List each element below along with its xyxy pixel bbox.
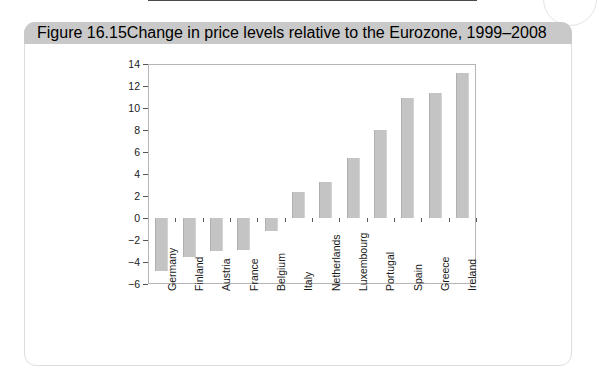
y-tick-label: 0 bbox=[106, 213, 140, 224]
bar bbox=[347, 158, 360, 219]
x-axis-label: Belgium bbox=[276, 253, 287, 291]
x-tick-mark bbox=[175, 218, 176, 222]
y-tick-mark bbox=[143, 240, 148, 241]
y-tick-label: 10 bbox=[106, 103, 140, 114]
y-tick-label: 4 bbox=[106, 169, 140, 180]
bar bbox=[456, 73, 469, 218]
bar bbox=[319, 182, 332, 218]
bar bbox=[265, 218, 278, 231]
y-tick-label: 14 bbox=[106, 59, 140, 70]
y-tick-label: −2 bbox=[106, 235, 140, 246]
bar bbox=[237, 218, 250, 250]
y-tick-mark bbox=[143, 262, 148, 263]
bar bbox=[292, 192, 305, 218]
x-tick-mark bbox=[476, 218, 477, 222]
y-tick-label: −4 bbox=[106, 257, 140, 268]
x-tick-mark bbox=[339, 218, 340, 222]
plot-area bbox=[148, 64, 476, 284]
bar bbox=[183, 218, 196, 257]
bar bbox=[374, 130, 387, 218]
y-tick-mark bbox=[143, 196, 148, 197]
bar bbox=[401, 98, 414, 218]
bar bbox=[210, 218, 223, 251]
x-axis-label: Italy bbox=[303, 272, 314, 291]
x-axis-label: Austria bbox=[221, 258, 232, 291]
x-axis-label: Greece bbox=[440, 257, 451, 291]
x-axis-label: Germany bbox=[167, 248, 178, 291]
x-tick-mark bbox=[449, 218, 450, 222]
x-axis-label: Ireland bbox=[467, 259, 478, 291]
x-tick-mark bbox=[367, 218, 368, 222]
y-tick-label: 2 bbox=[106, 191, 140, 202]
x-axis-label: Netherlands bbox=[331, 234, 342, 291]
y-tick-mark bbox=[143, 86, 148, 87]
x-axis-label: Portugal bbox=[385, 252, 396, 291]
bar bbox=[429, 93, 442, 218]
y-tick-mark bbox=[143, 108, 148, 109]
x-axis-label: Finland bbox=[194, 257, 205, 291]
x-tick-mark bbox=[421, 218, 422, 222]
x-tick-mark bbox=[285, 218, 286, 222]
y-tick-mark bbox=[143, 218, 148, 219]
x-tick-mark bbox=[394, 218, 395, 222]
x-tick-mark bbox=[230, 218, 231, 222]
x-axis-label: Luxembourg bbox=[358, 233, 369, 291]
y-tick-label: 12 bbox=[106, 81, 140, 92]
x-axis-label: France bbox=[249, 258, 260, 291]
y-tick-label: 6 bbox=[106, 147, 140, 158]
y-tick-mark bbox=[143, 130, 148, 131]
x-tick-mark bbox=[203, 218, 204, 222]
y-tick-label: 8 bbox=[106, 125, 140, 136]
zero-axis-line bbox=[148, 0, 477, 1]
x-axis-label: Spain bbox=[413, 264, 424, 291]
x-tick-mark bbox=[257, 218, 258, 222]
y-tick-mark bbox=[143, 64, 148, 65]
y-tick-mark bbox=[143, 284, 148, 285]
bar-chart: 14121086420−2−4−6 GermanyFinlandAustriaF… bbox=[0, 0, 599, 388]
x-tick-mark bbox=[312, 218, 313, 222]
y-tick-mark bbox=[143, 152, 148, 153]
y-tick-label: −6 bbox=[106, 279, 140, 290]
y-tick-mark bbox=[143, 174, 148, 175]
